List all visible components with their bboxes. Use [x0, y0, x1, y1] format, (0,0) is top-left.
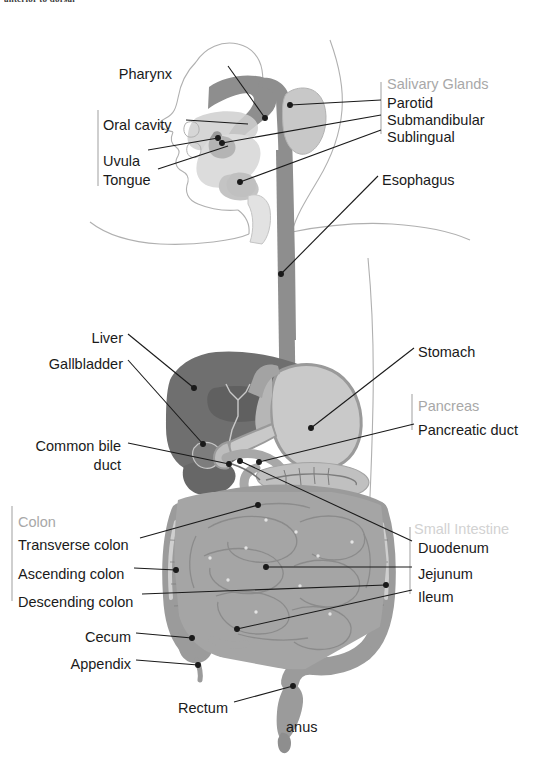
- larynx-shape: [248, 195, 271, 244]
- pharynx-label: Pharynx: [110, 66, 172, 83]
- sublingual-gland-shape: [227, 172, 257, 197]
- rectum-label: Rectum: [168, 700, 228, 717]
- ileum-label: Ileum: [418, 589, 453, 606]
- anus-label: anus: [286, 719, 317, 736]
- oral-cavity-label: Oral cavity: [103, 117, 172, 134]
- esophagus-label: Esophagus: [382, 172, 455, 189]
- small-intestine-shape: [174, 488, 390, 669]
- colon-group-label: Colon: [18, 514, 56, 531]
- stomach-shape: [271, 365, 361, 470]
- ascending-colon-label: Ascending colon: [18, 566, 124, 583]
- liver-label: Liver: [63, 330, 123, 347]
- descending-colon-label: Descending colon: [18, 594, 133, 611]
- duodenum-label: Duodenum: [418, 540, 489, 557]
- sublingual-label: Sublingual: [387, 129, 455, 146]
- stomach-label: Stomach: [418, 344, 475, 361]
- transverse-colon-label: Transverse colon: [18, 537, 129, 554]
- common-bile-duct-label: Common bile duct: [31, 437, 121, 475]
- parotid-gland-shape: [282, 88, 326, 154]
- appendix-label: Appendix: [51, 656, 131, 673]
- jejunum-label: Jejunum: [418, 566, 473, 583]
- salivary-glands-group-label: Salivary Glands: [387, 76, 489, 93]
- leader-liver: [128, 334, 196, 390]
- submandibular-label: Submandibular: [387, 112, 485, 129]
- uvula-label: Uvula: [103, 153, 140, 170]
- small-intestine-group-label: Small Intestine: [414, 521, 509, 538]
- tongue-label: Tongue: [103, 172, 151, 189]
- pancreas-group-label: Pancreas: [418, 398, 479, 415]
- gallbladder-label: Gallbladder: [23, 356, 123, 373]
- abdominal-organs: [166, 351, 390, 753]
- cecum-label: Cecum: [71, 629, 131, 646]
- parotid-label: Parotid: [387, 95, 433, 112]
- pancreatic-duct-label: Pancreatic duct: [418, 422, 518, 439]
